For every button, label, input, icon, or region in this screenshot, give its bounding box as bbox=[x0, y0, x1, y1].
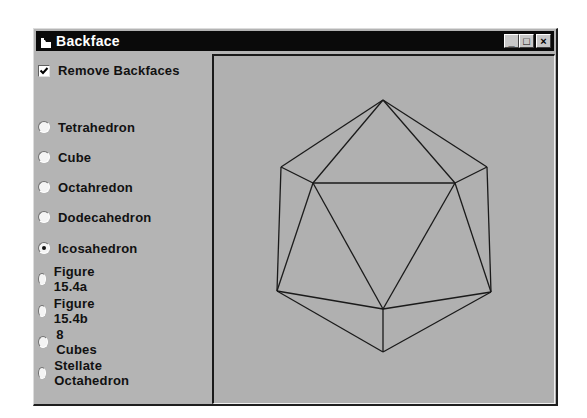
radio-button[interactable] bbox=[38, 211, 50, 223]
minimize-icon: _ bbox=[508, 35, 514, 47]
maximize-icon: □ bbox=[523, 35, 530, 47]
polyhedron-edge bbox=[383, 100, 487, 167]
minimize-button[interactable]: _ bbox=[504, 34, 519, 48]
polyhedron-edge bbox=[313, 100, 383, 183]
maximize-button[interactable]: □ bbox=[519, 34, 534, 48]
title-bar[interactable]: Backface _ □ × bbox=[36, 31, 554, 51]
polyhedron-edge bbox=[383, 183, 455, 309]
polyhedron-edge bbox=[277, 183, 313, 291]
radio-button[interactable] bbox=[38, 273, 46, 285]
radio-label: Stellate Octahedron bbox=[54, 358, 133, 388]
drawing-canvas[interactable] bbox=[212, 54, 555, 404]
radio-label: Tetrahedron bbox=[58, 120, 135, 135]
polyhedron-edge bbox=[455, 167, 487, 183]
radio-label: Cube bbox=[58, 150, 91, 165]
radio-label: Figure 15.4a bbox=[54, 264, 99, 294]
close-button[interactable]: × bbox=[536, 34, 551, 48]
polyhedron-edge bbox=[281, 167, 313, 183]
radio-button[interactable] bbox=[38, 181, 50, 193]
radio-button[interactable] bbox=[38, 336, 48, 348]
app-window: Backface _ □ × Remove Backfaces Tetrahed… bbox=[33, 28, 558, 406]
radio-figure-15-4a[interactable]: Figure 15.4a bbox=[38, 271, 99, 287]
polyhedron-edge bbox=[313, 183, 383, 309]
polyhedron-edge bbox=[487, 167, 491, 292]
radio-figure-15-4b[interactable]: Figure 15.4b bbox=[38, 303, 99, 319]
radio-label: Dodecahedron bbox=[58, 210, 151, 225]
remove-backfaces-checkbox[interactable] bbox=[38, 65, 50, 77]
radio-label: Figure 15.4b bbox=[54, 296, 99, 326]
polyhedron-edge bbox=[455, 183, 491, 292]
remove-backfaces-label: Remove Backfaces bbox=[58, 63, 180, 78]
polyhedron-edge bbox=[277, 167, 281, 291]
polyhedron-edge bbox=[281, 100, 383, 167]
radio-octahedron[interactable]: Octahredon bbox=[38, 179, 133, 195]
radio-stellate-octahedron[interactable]: Stellate Octahedron bbox=[38, 365, 133, 381]
radio-8-cubes[interactable]: 8 Cubes bbox=[38, 334, 99, 350]
radio-button[interactable] bbox=[38, 305, 46, 317]
radio-dodecahedron[interactable]: Dodecahedron bbox=[38, 209, 151, 225]
icosahedron-drawing bbox=[214, 56, 555, 404]
radio-button[interactable] bbox=[38, 151, 50, 163]
radio-label: 8 Cubes bbox=[56, 327, 99, 357]
radio-button[interactable] bbox=[38, 367, 46, 379]
radio-icosahedron[interactable]: Icosahedron bbox=[38, 240, 138, 256]
remove-backfaces-checkbox-row[interactable]: Remove Backfaces bbox=[38, 63, 180, 78]
checkmark-icon bbox=[39, 66, 49, 76]
radio-button[interactable] bbox=[38, 121, 50, 133]
radio-label: Icosahedron bbox=[58, 241, 138, 256]
radio-button-selected[interactable] bbox=[38, 242, 50, 254]
close-icon: × bbox=[540, 35, 546, 47]
radio-cube[interactable]: Cube bbox=[38, 149, 91, 165]
radio-tetrahedron[interactable]: Tetrahedron bbox=[38, 119, 135, 135]
radio-label: Octahredon bbox=[58, 180, 133, 195]
polyhedron-edge bbox=[383, 100, 455, 183]
window-title: Backface bbox=[56, 33, 120, 49]
app-icon bbox=[40, 35, 52, 47]
